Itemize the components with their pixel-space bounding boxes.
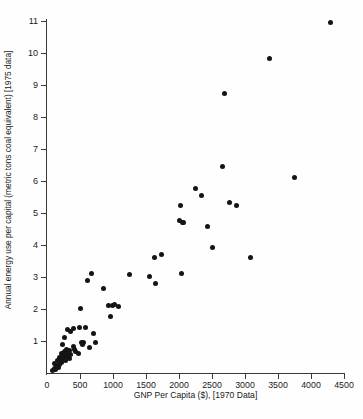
data-point xyxy=(292,175,297,180)
data-point xyxy=(210,245,215,250)
y-axis-tick-label: 11 xyxy=(12,17,38,26)
data-point xyxy=(87,345,92,350)
data-point xyxy=(227,200,232,205)
y-axis-tick xyxy=(41,245,46,246)
x-axis-tick xyxy=(311,374,312,379)
data-point xyxy=(181,220,186,225)
data-point xyxy=(267,56,272,61)
data-point xyxy=(153,281,158,286)
data-point xyxy=(81,340,86,345)
x-axis-line xyxy=(46,373,345,374)
y-axis-tick-label: 5 xyxy=(12,209,38,218)
data-point xyxy=(60,342,65,347)
scatter-chart-figure: Annual energy use per capital (metric to… xyxy=(0,0,363,419)
data-point xyxy=(159,252,164,257)
data-point xyxy=(328,20,333,25)
x-axis-tick xyxy=(278,374,279,379)
y-axis-tick xyxy=(41,213,46,214)
y-axis-tick xyxy=(41,341,46,342)
y-axis-tick-label: 4 xyxy=(12,241,38,250)
data-point xyxy=(116,304,121,309)
x-axis-tick xyxy=(146,374,147,379)
data-point xyxy=(71,326,76,331)
data-point xyxy=(193,186,198,191)
y-axis-tick xyxy=(41,53,46,54)
data-point xyxy=(77,325,82,330)
data-point xyxy=(147,274,152,279)
data-point xyxy=(76,351,81,356)
data-point xyxy=(248,255,253,260)
data-point xyxy=(83,325,88,330)
y-axis-tick-label: 10 xyxy=(12,49,38,58)
y-axis-tick xyxy=(41,277,46,278)
data-point xyxy=(127,272,132,277)
x-axis-tick xyxy=(179,374,180,379)
x-axis-label: GNP Per Capita ($), [1970 Data] xyxy=(47,390,344,400)
x-axis-tick xyxy=(212,374,213,379)
x-axis-tick xyxy=(344,374,345,379)
x-axis-tick xyxy=(80,374,81,379)
y-axis-tick xyxy=(41,149,46,150)
data-point xyxy=(91,331,96,336)
data-point xyxy=(62,335,67,340)
data-point xyxy=(199,193,204,198)
y-axis-tick-label: 8 xyxy=(12,113,38,122)
data-point xyxy=(93,340,98,345)
data-point xyxy=(108,314,113,319)
data-point xyxy=(89,271,94,276)
data-point xyxy=(78,306,83,311)
x-axis-tick xyxy=(245,374,246,379)
data-point xyxy=(205,224,210,229)
y-axis-tick xyxy=(41,85,46,86)
data-point xyxy=(234,203,239,208)
data-point xyxy=(178,203,183,208)
y-axis-tick-label: 6 xyxy=(12,177,38,186)
data-point xyxy=(222,91,227,96)
y-axis-tick-label: 3 xyxy=(12,273,38,282)
data-point xyxy=(179,271,184,276)
y-axis-tick xyxy=(41,117,46,118)
data-point xyxy=(220,164,225,169)
x-axis-tick-label: 4500 xyxy=(324,381,363,390)
data-point xyxy=(67,356,72,361)
y-axis-tick xyxy=(41,309,46,310)
data-point xyxy=(85,278,90,283)
y-axis-tick xyxy=(41,21,46,22)
y-axis-tick-label: 9 xyxy=(12,81,38,90)
y-axis-tick-label: 7 xyxy=(12,145,38,154)
x-axis-tick xyxy=(113,374,114,379)
y-axis-tick-label: 1 xyxy=(12,337,38,346)
data-point xyxy=(152,255,157,260)
data-point xyxy=(101,286,106,291)
plot-area xyxy=(47,21,344,373)
y-axis-tick-label: 2 xyxy=(12,305,38,314)
data-point xyxy=(68,352,73,357)
y-axis-tick xyxy=(41,181,46,182)
